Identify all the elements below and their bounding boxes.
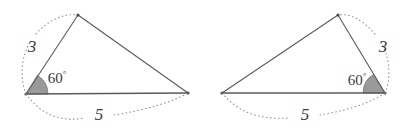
left-label-angle: 60° [48, 70, 67, 86]
right-triangle-side-long [222, 15, 338, 93]
diagram-canvas [0, 0, 412, 133]
left-label-degree-symbol: ° [63, 69, 67, 79]
right-triangle-group [220, 13, 389, 118]
right-arc-base-left [222, 93, 290, 118]
left-arc-base-right [114, 93, 188, 115]
left-label-side-base: 5 [95, 106, 104, 123]
left-arc-base-left [26, 94, 84, 119]
left-triangle-base [26, 93, 188, 94]
right-label-side-base: 5 [301, 106, 310, 123]
right-label-side-short: 3 [379, 38, 388, 55]
right-label-degree-symbol: ° [363, 71, 367, 81]
geometry-figure: 3 60° 5 3 60° 5 [0, 0, 412, 133]
left-label-angle-value: 60 [48, 70, 63, 86]
left-triangle-vertex-apex [76, 13, 79, 16]
right-label-angle-value: 60 [348, 72, 363, 88]
right-triangle-vertex-apex [336, 13, 339, 16]
left-label-side-short: 3 [28, 38, 37, 55]
left-triangle-group [22, 13, 190, 119]
right-arc-base-right [320, 93, 385, 115]
right-label-angle: 60° [348, 72, 367, 88]
left-triangle-side-long [78, 15, 188, 93]
